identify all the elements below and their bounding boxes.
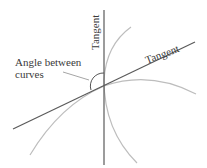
curve-two — [104, 27, 137, 163]
tangent-diagonal-label: Tangent — [143, 42, 180, 66]
tangent-vertical-label: Tangent — [89, 15, 101, 50]
diagram-svg: Tangent Tangent Angle between curves — [0, 0, 207, 168]
angle-between-curves-diagram: Tangent Tangent Angle between curves — [0, 0, 207, 168]
angle-leader-line — [63, 72, 89, 80]
curve-one — [30, 80, 196, 155]
angle-label-line1: Angle between — [15, 56, 82, 68]
angle-label-line2: curves — [15, 68, 44, 80]
